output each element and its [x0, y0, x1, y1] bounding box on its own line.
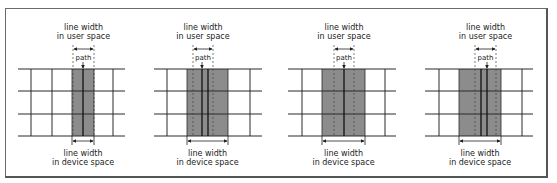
panel-2: line widthin user spacepathline widthin …: [154, 23, 262, 167]
user-space-label: line width: [324, 23, 363, 32]
user-space-label: in user space: [317, 32, 370, 41]
panel-4: line widthin user spacepathline widthin …: [425, 23, 533, 167]
device-space-label: in device space: [312, 158, 374, 167]
path-label: path: [478, 54, 494, 62]
device-pixel-band: [459, 69, 501, 136]
device-space-label: in device space: [449, 158, 511, 167]
user-space-label: in user space: [176, 32, 229, 41]
user-space-label: line width: [183, 23, 222, 32]
device-space-label: in device space: [176, 158, 238, 167]
user-space-label: in user space: [57, 32, 110, 41]
user-space-label: line width: [466, 23, 505, 32]
path-label: path: [76, 54, 92, 62]
panel-1: line widthin user spacepathline widthin …: [18, 23, 125, 167]
path-label: path: [336, 54, 352, 62]
device-space-label: line width: [324, 149, 363, 158]
device-space-label: line width: [63, 149, 102, 158]
device-space-label: in device space: [52, 158, 114, 167]
panel-3: line widthin user spacepathline widthin …: [288, 23, 396, 167]
device-space-label: line width: [188, 149, 227, 158]
user-space-label: line width: [64, 23, 103, 32]
device-space-label: line width: [460, 149, 499, 158]
user-space-label: in user space: [459, 32, 512, 41]
line-width-diagram: line widthin user spacepathline widthin …: [0, 0, 557, 183]
path-label: path: [195, 54, 211, 62]
